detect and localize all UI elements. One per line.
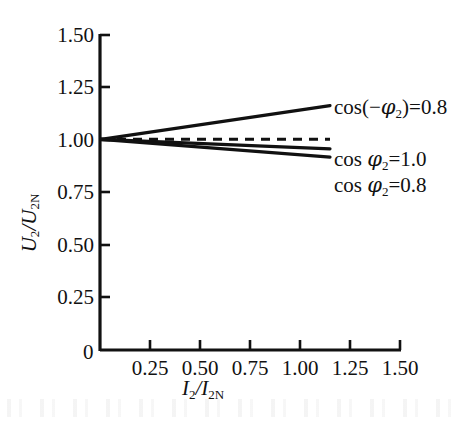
annotation-capacitive-prefix: cos( (334, 95, 369, 119)
x-axis-title-sub2: 2N (208, 387, 224, 402)
annotation-lagging-suffix: =0.8 (388, 173, 426, 197)
annotation-unity-suffix: =1.0 (388, 147, 426, 171)
x-axis-title-denominator: /I (196, 376, 209, 400)
y-axis-title-sub1: 2 (27, 231, 42, 238)
annotation-capacitive-minus: − (369, 95, 381, 119)
y-axis-title-numerator: U (17, 237, 41, 252)
annotation-unity-prefix: cos (334, 147, 367, 171)
x-axis-title-numerator: I (182, 376, 189, 400)
transformer-external-characteristic-figure: 1.50 1.25 1.00 0.75 0.50 0.25 0 0.25 0.5… (0, 0, 455, 421)
annotation-lagging-prefix: cos (334, 173, 367, 197)
annotation-lagging-cos-phi2: cos φ2=0.8 (334, 173, 427, 200)
x-axis-title: I2/I2N (182, 378, 224, 401)
origin-tick-label: 0 (83, 342, 94, 363)
annotation-lagging-phi: φ (367, 173, 382, 197)
y-axis-title: U2/U2N (10, 168, 50, 278)
y-axis-title-denominator: /U (17, 210, 41, 231)
annotation-unity-cos-phi2: cos φ2=1.0 (334, 147, 427, 174)
series-capacitive-line (101, 106, 330, 140)
annotation-capacitive-suffix: )=0.8 (402, 95, 447, 119)
y-tick-label-1.25: 1.25 (28, 77, 94, 98)
y-axis-title-sub2: 2N (27, 194, 42, 210)
annotation-capacitive-cos-phi2: cos(−φ2)=0.8 (334, 95, 447, 122)
x-tick-label-1.50: 1.50 (370, 358, 430, 379)
annotation-capacitive-phi: φ (381, 95, 396, 119)
y-tick-label-1.00: 1.00 (28, 130, 94, 151)
y-tick-label-0.25: 0.25 (28, 287, 94, 308)
annotation-unity-phi: φ (367, 147, 382, 171)
y-tick-label-1.50: 1.50 (28, 25, 94, 46)
